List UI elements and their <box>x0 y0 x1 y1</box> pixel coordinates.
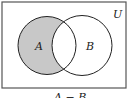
venn-diagram: A B U A − B <box>0 0 128 98</box>
label-b: B <box>85 40 94 53</box>
caption: A − B <box>53 91 86 98</box>
label-universe: U <box>113 8 123 21</box>
label-a: A <box>34 40 43 53</box>
